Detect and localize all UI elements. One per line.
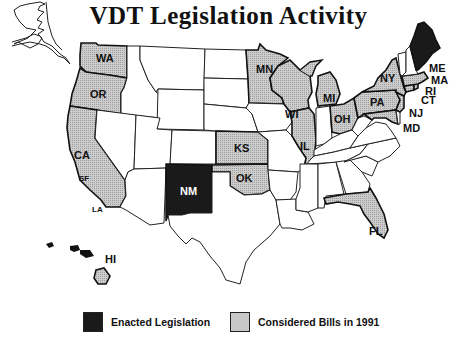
label-pa: PA bbox=[370, 96, 385, 108]
state-az bbox=[120, 168, 166, 225]
label-mn: MN bbox=[256, 63, 273, 75]
legend-label-considered: Considered Bills in 1991 bbox=[258, 316, 379, 328]
label-or: OR bbox=[90, 88, 107, 100]
label-nm: NM bbox=[180, 185, 197, 197]
enacted-swatch bbox=[83, 312, 103, 332]
label-me: ME bbox=[429, 62, 446, 74]
state-ak-body bbox=[46, 2, 62, 50]
label-ct: CT bbox=[421, 94, 436, 106]
legend-item-considered: Considered Bills in 1991 bbox=[230, 312, 379, 332]
label-ca: CA bbox=[74, 149, 90, 161]
state-ak bbox=[14, 2, 45, 48]
label-md: MD bbox=[403, 122, 420, 134]
label-la: LA bbox=[92, 205, 103, 214]
state-wy bbox=[157, 89, 204, 130]
legend: Enacted Legislation Considered Bills in … bbox=[0, 312, 457, 334]
label-ks: KS bbox=[234, 142, 249, 154]
us-map: WA OR CA SF LA MN WI MI IL OH NY PA ME M… bbox=[0, 0, 457, 346]
label-mi: MI bbox=[323, 92, 335, 104]
state-co bbox=[170, 130, 216, 164]
label-sf: SF bbox=[79, 174, 89, 183]
state-hi[interactable] bbox=[46, 242, 110, 284]
state-nd bbox=[204, 49, 248, 79]
considered-swatch bbox=[230, 312, 250, 332]
label-oh: OH bbox=[334, 113, 351, 125]
label-hi: HI bbox=[105, 253, 116, 265]
label-il: IL bbox=[300, 140, 310, 152]
label-wa: WA bbox=[96, 52, 114, 64]
legend-label-enacted: Enacted Legislation bbox=[111, 316, 210, 328]
label-ny: NY bbox=[380, 72, 396, 84]
label-ok: OK bbox=[236, 172, 253, 184]
state-sd bbox=[204, 78, 249, 108]
label-fl: FL bbox=[369, 225, 383, 237]
label-nj: NJ bbox=[409, 107, 423, 119]
label-wi: WI bbox=[285, 108, 298, 120]
legend-item-enacted: Enacted Legislation bbox=[83, 312, 210, 332]
